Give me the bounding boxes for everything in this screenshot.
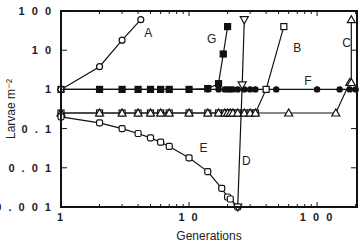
series-label-F: F xyxy=(304,74,311,88)
x-axis-title: Generations xyxy=(176,229,241,243)
data-point-G xyxy=(216,81,222,87)
series-B xyxy=(58,24,287,116)
y-tick-label: 0 . 0 0 1 xyxy=(0,201,53,213)
y-tick-label: 1 xyxy=(45,83,53,95)
data-point-G xyxy=(158,86,164,92)
y-tick-label: 1 0 0 xyxy=(19,5,53,17)
data-point-F xyxy=(314,87,319,92)
data-point-G xyxy=(119,86,125,92)
data-point-F xyxy=(235,87,240,92)
data-point-G xyxy=(147,86,153,92)
data-point-E xyxy=(97,120,103,126)
data-point-E xyxy=(205,169,211,175)
data-point-G xyxy=(97,86,103,92)
data-point-E xyxy=(147,135,153,141)
series-line-A xyxy=(61,20,141,90)
data-point-A xyxy=(119,37,125,43)
data-point-F xyxy=(337,87,342,92)
data-point-E xyxy=(166,143,172,149)
data-point-G xyxy=(225,24,231,30)
series-label-A: A xyxy=(144,26,152,40)
data-point-F xyxy=(274,87,279,92)
y-tick-label: 1 0 xyxy=(32,44,53,56)
series-label-E: E xyxy=(200,141,208,155)
series-line-E xyxy=(61,117,238,207)
chart: 11 01 0 01 0 01 010 . 10 . 0 10 . 0 0 1F… xyxy=(0,0,363,249)
data-point-F xyxy=(216,87,221,92)
y-tick-label: 0 . 0 1 xyxy=(8,162,53,174)
data-point-E xyxy=(219,185,225,191)
series-A xyxy=(58,17,144,93)
data-point-G xyxy=(186,86,192,92)
x-tick-label: 1 0 xyxy=(178,211,199,223)
data-point-F xyxy=(248,87,253,92)
labels-layer: 11 01 0 01 0 01 010 . 10 . 0 10 . 0 0 1F… xyxy=(0,5,351,223)
data-point-A xyxy=(97,64,103,70)
data-point-F xyxy=(253,87,258,92)
series-E xyxy=(58,114,241,210)
series-label-G: G xyxy=(207,32,216,46)
data-point-G xyxy=(220,51,226,57)
data-point-E xyxy=(227,196,233,202)
data-point-E xyxy=(135,130,141,136)
data-point-C xyxy=(347,16,355,23)
data-point-G xyxy=(205,86,211,92)
data-point-E xyxy=(158,139,164,145)
x-tick-label: 1 xyxy=(57,211,65,223)
y-axis-title: Larvae m⁻² xyxy=(4,79,18,139)
y-tick-label: 0 . 1 xyxy=(22,123,53,135)
series-label-D: D xyxy=(242,154,251,168)
data-point-E xyxy=(119,126,125,132)
data-point-A xyxy=(138,17,144,23)
data-point-D xyxy=(240,17,248,24)
data-point-E xyxy=(186,155,192,161)
data-point-B xyxy=(281,24,287,30)
series-label-B: B xyxy=(293,41,301,55)
series-label-C: C xyxy=(342,36,351,50)
data-point-G xyxy=(135,86,141,92)
data-point-B xyxy=(263,86,269,92)
x-tick-label: 1 0 0 xyxy=(300,211,334,223)
data-point-G xyxy=(166,86,172,92)
